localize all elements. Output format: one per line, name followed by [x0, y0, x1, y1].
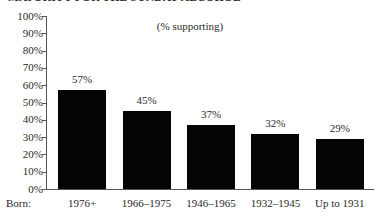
y-axis-tick-label: 50%	[1, 97, 43, 108]
x-axis-category-row: Born: 1976+1966–19751946–19651932–1945Up…	[0, 196, 387, 212]
bar	[316, 139, 364, 189]
y-axis-tick-label: 70%	[1, 62, 43, 73]
bar	[187, 125, 235, 189]
y-axis-tick	[42, 189, 46, 190]
x-axis-tick-label: Up to 1931	[300, 196, 380, 210]
bar-group: 29%	[316, 16, 364, 189]
y-axis-tick-label: 20%	[1, 149, 43, 160]
y-axis-labels: 100%90%80%70%60%50%40%30%20%10%0%	[0, 16, 43, 190]
bar	[123, 111, 171, 189]
bar-value-label: 45%	[109, 94, 185, 106]
y-axis-tick-label: 100%	[1, 11, 43, 22]
bar-series: 57%45%37%32%29%	[46, 16, 368, 189]
x-axis-line	[46, 189, 374, 190]
bar-group: 37%	[187, 16, 235, 189]
y-axis-tick-label: 90%	[1, 28, 43, 39]
y-axis-tick-label: 80%	[1, 45, 43, 56]
bar-group: 45%	[123, 16, 171, 189]
bar-group: 32%	[251, 16, 299, 189]
chart-annotation: (% supporting)	[110, 20, 270, 32]
y-axis-tick-label: 10%	[1, 166, 43, 177]
y-axis-tick-label: 60%	[1, 80, 43, 91]
chart-title: MAJORITY FOR THE SUNDAY ALCOHOL	[8, 0, 308, 5]
bar-group: 57%	[58, 16, 106, 189]
bar	[58, 90, 106, 189]
y-axis-tick-label: 0%	[1, 184, 43, 195]
bar-value-label: 57%	[44, 73, 120, 85]
bar-value-label: 29%	[302, 122, 378, 134]
x-axis-row-label: Born:	[6, 196, 31, 210]
y-axis-tick-label: 30%	[1, 132, 43, 143]
chart-screenshot: MAJORITY FOR THE SUNDAY ALCOHOL 100%90%8…	[0, 0, 387, 222]
bar	[251, 134, 299, 189]
plot-area: 57%45%37%32%29%	[46, 16, 368, 189]
y-axis-tick-label: 40%	[1, 114, 43, 125]
